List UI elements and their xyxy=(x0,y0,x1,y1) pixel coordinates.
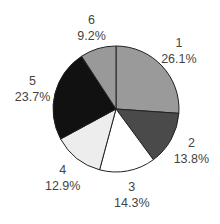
slice-label-value: 12.9% xyxy=(45,179,80,193)
slice-label-value: 9.2% xyxy=(77,29,106,43)
pie-chart: 126.1%213.8%314.3%412.9%523.7%69.2% xyxy=(0,0,220,224)
slice-label-category: 5 xyxy=(29,74,36,88)
slice-label-value: 13.8% xyxy=(174,152,209,166)
slice-label-value: 14.3% xyxy=(114,196,149,210)
pie-slices xyxy=(53,46,179,172)
slice-label-category: 2 xyxy=(188,136,195,150)
slice-label-category: 4 xyxy=(59,163,66,177)
slice-label-value: 23.7% xyxy=(15,90,50,104)
slice-label-category: 3 xyxy=(128,180,135,194)
slice-label-category: 1 xyxy=(175,36,182,50)
slice-label-value: 26.1% xyxy=(161,52,196,66)
slice-label-category: 6 xyxy=(88,13,95,27)
